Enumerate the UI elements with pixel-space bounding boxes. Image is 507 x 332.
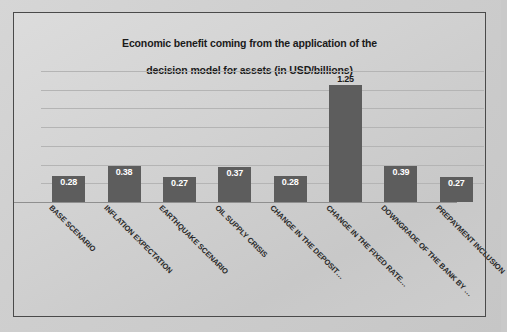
chart-title-line-1: Economic benefit coming from the applica… xyxy=(122,37,377,49)
bar: 0.38 xyxy=(108,166,141,202)
category-label: OIL SUPPLY CRISIS xyxy=(213,203,269,259)
bar-value-label: 0.27 xyxy=(171,177,188,189)
bar-slot: 0.28 xyxy=(41,71,96,202)
bar: 0.27 xyxy=(440,177,473,202)
category-label: BASE SCENARIO xyxy=(47,203,97,253)
bar-value-label: 1.25 xyxy=(337,73,354,85)
bar-value-label: 0.28 xyxy=(282,176,299,188)
bar: 0.27 xyxy=(163,177,196,202)
bar: 1.25 xyxy=(329,85,362,202)
bar-slot: 0.28 xyxy=(263,71,318,202)
bar-value-label: 0.38 xyxy=(116,166,133,178)
bar: 0.28 xyxy=(274,176,307,202)
bar-slot: 1.25 xyxy=(318,71,373,202)
bar: 0.28 xyxy=(52,176,85,202)
bar-slot: 0.27 xyxy=(429,71,484,202)
category-label: DOWNGRADE OF THE BANK BY … xyxy=(379,203,474,298)
bar: 0.37 xyxy=(218,167,251,202)
bar-series: 0.280.380.270.370.281.250.390.27 xyxy=(41,71,484,202)
chart-title: Economic benefit coming from the applica… xyxy=(14,23,485,77)
bar-slot: 0.37 xyxy=(207,71,262,202)
bar-value-label: 0.39 xyxy=(393,166,410,178)
x-axis-line xyxy=(14,202,457,203)
bar-slot: 0.27 xyxy=(152,71,207,202)
bar-value-label: 0.28 xyxy=(60,176,77,188)
bar: 0.39 xyxy=(384,166,417,202)
bar-slot: 0.38 xyxy=(96,71,151,202)
chart-frame: Economic benefit coming from the applica… xyxy=(13,12,486,317)
bar-value-label: 0.37 xyxy=(226,167,243,179)
bar-value-label: 0.27 xyxy=(448,177,465,189)
bar-slot: 0.39 xyxy=(373,71,428,202)
x-axis-category-labels: BASE SCENARIOINFLATION EXPECTATIONEARTHQ… xyxy=(41,204,484,304)
